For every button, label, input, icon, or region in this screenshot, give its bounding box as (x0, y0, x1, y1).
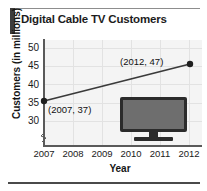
data-point-label-start: (2007, 37) (48, 104, 91, 115)
x-tick-label: 2011 (145, 148, 175, 159)
x-tick-label: 2009 (87, 148, 117, 159)
data-point-marker-start (41, 98, 47, 104)
data-point-label-end: (2012, 47) (120, 56, 163, 67)
bottom-divider (8, 182, 200, 184)
x-axis-title: Year (40, 163, 200, 174)
x-tick-label: 2012 (174, 148, 204, 159)
data-point-marker-end (187, 61, 193, 67)
chart-figure: Digital Cable TV Customers Customers (in… (0, 0, 207, 191)
series-line (44, 64, 190, 101)
x-tick-label: 2008 (58, 148, 88, 159)
x-tick-label: 2007 (29, 148, 59, 159)
x-tick-label: 2010 (116, 148, 146, 159)
